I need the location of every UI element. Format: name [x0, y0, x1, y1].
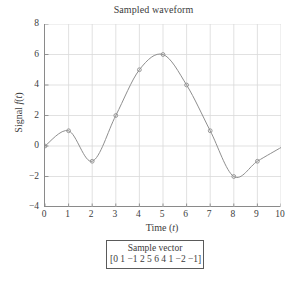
x-tick-label: 1 [58, 210, 78, 220]
sample-vector-values: [0 1 −1 2 5 6 4 1 −2 −1] [110, 254, 200, 265]
x-tick-label: 6 [176, 210, 196, 220]
y-axis-title-text: Signal [13, 105, 24, 133]
plot-area [44, 24, 280, 207]
y-axis-title-paren-open: ( [13, 98, 24, 101]
figure-container: Sampled waveform 86420−2−4 012345678910 … [0, 0, 307, 283]
x-tick-label: 3 [105, 210, 125, 220]
y-axis-title-variable-t: t [13, 96, 24, 99]
plot-svg [45, 24, 281, 207]
y-tick-marks [45, 24, 49, 207]
y-axis-title-paren-close: ) [13, 92, 24, 95]
sample-vector-title: Sample vector [110, 243, 200, 254]
x-axis-title-text: Time ( [146, 222, 173, 233]
x-tick-label: 8 [223, 210, 243, 220]
y-tick-label: 8 [13, 19, 39, 29]
y-tick-label: −4 [13, 202, 39, 212]
y-axis-title: Signal f(t) [13, 48, 24, 178]
x-tick-label: 0 [34, 210, 54, 220]
x-axis-title: Time (t) [44, 222, 280, 233]
y-axis-title-variable-f: f [13, 102, 24, 105]
x-tick-label: 7 [199, 210, 219, 220]
x-tick-marks [45, 204, 281, 208]
x-tick-label: 4 [128, 210, 148, 220]
x-tick-label: 10 [270, 210, 290, 220]
x-tick-label: 9 [246, 210, 266, 220]
sample-vector-box: Sample vector [0 1 −1 2 5 6 4 1 −2 −1] [106, 240, 204, 269]
x-tick-label: 2 [81, 210, 101, 220]
x-tick-label: 5 [152, 210, 172, 220]
chart-title: Sampled waveform [0, 4, 307, 15]
x-axis-title-tail: ) [175, 222, 178, 233]
